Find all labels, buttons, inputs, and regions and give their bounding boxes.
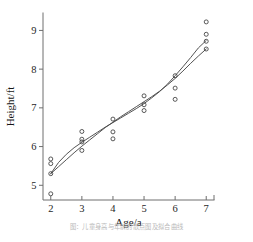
- data-point-marker: [49, 157, 53, 161]
- data-point-marker: [49, 192, 53, 196]
- data-point-marker: [142, 109, 146, 113]
- fit-curve: [51, 49, 206, 174]
- data-point-marker: [173, 97, 177, 101]
- x-tick-label: 2: [48, 203, 53, 214]
- x-tick-label: 3: [79, 203, 84, 214]
- data-point-marker: [80, 148, 84, 152]
- y-axis-title: Height/ft: [4, 87, 16, 127]
- y-tick-label: 8: [31, 64, 36, 75]
- height-vs-age-scatter-plot: 56789234567Age/aHeight/ft: [0, 0, 253, 242]
- x-tick-label: 5: [141, 203, 146, 214]
- data-point-marker: [111, 137, 115, 141]
- x-tick-label: 4: [110, 203, 116, 214]
- fit-curve: [51, 40, 206, 173]
- figure-caption: 图：儿童身高与年龄的散点图及拟合曲线: [0, 222, 253, 231]
- y-tick-label: 9: [31, 25, 36, 36]
- data-point-marker: [49, 162, 53, 166]
- data-point-marker: [204, 20, 208, 24]
- data-point-marker: [80, 129, 84, 133]
- data-point-marker: [173, 86, 177, 90]
- y-tick-label: 6: [31, 141, 36, 152]
- chart-figure: 56789234567Age/aHeight/ft 图：儿童身高与年龄的散点图及…: [0, 0, 253, 242]
- x-tick-label: 6: [173, 203, 178, 214]
- x-tick-label: 7: [204, 203, 209, 214]
- data-point-marker: [204, 32, 208, 36]
- y-tick-label: 5: [31, 180, 36, 191]
- data-point-marker: [111, 130, 115, 134]
- data-point-marker: [111, 117, 115, 121]
- y-tick-label: 7: [31, 102, 36, 113]
- data-point-marker: [142, 94, 146, 98]
